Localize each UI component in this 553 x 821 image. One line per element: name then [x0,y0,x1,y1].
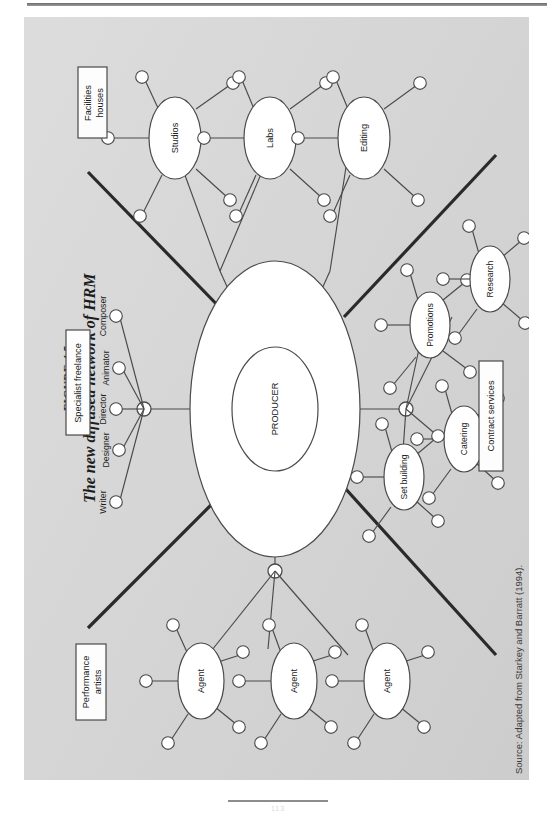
satellite-node [464,366,477,379]
satellite-node [518,232,529,245]
contract-cluster: Promotions Research [351,220,529,543]
satellite-node [140,675,153,688]
satellite-node [423,492,436,505]
group-box-performance-artists[interactable]: Performance artists [76,644,106,720]
satellite-node [384,382,397,395]
satellite-node [492,477,505,490]
satellite-node [356,619,369,632]
node-agent-3[interactable]: Agent [326,619,435,750]
group-box-label-specialist-freelance: Specialist freelance [73,343,83,423]
node-label-research: Research [485,260,495,297]
node-label-set-building: Set building [399,454,409,499]
role-label-designer: Designer [101,432,111,467]
role-node-composer[interactable] [110,310,123,323]
group-box-label-line2: houses [95,88,105,118]
node-agent-2[interactable]: Agent [233,619,342,750]
satellite-node [292,132,305,145]
role-label-animator: Animator [101,350,111,385]
group-box-specialist-freelance[interactable]: Specialist freelance [66,330,90,435]
role-label-writer: Writer [98,490,108,513]
facilities-cluster: Studios Labs [78,67,426,271]
group-box-facilities-houses[interactable]: Facilities houses [78,67,107,138]
group-box-label-line1: Performance [81,656,91,709]
node-label-agent-2: Agent [289,669,299,693]
role-node-animator[interactable] [113,362,126,375]
satellite-node [318,194,331,207]
node-studios[interactable]: Studios [102,71,240,223]
page-number: 113 [228,805,328,812]
satellite-node [237,646,250,659]
satellite-node [255,737,268,750]
satellite-node [233,721,246,734]
satellite-node [432,515,445,528]
producer-label: PRODUCER [270,382,280,435]
figure-panel: FIGURE 4.5 The new diffused network of H… [24,17,529,780]
node-label-editing: Editing [359,124,369,152]
satellite-node [162,737,175,750]
satellite-node [326,675,339,688]
satellite-node [233,71,246,84]
node-label-agent-3: Agent [382,669,392,693]
satellite-node [463,220,476,233]
group-box-label-line2: artists [93,669,103,694]
role-node-writer[interactable] [110,496,123,509]
satellite-node [375,319,388,332]
satellite-node [519,317,529,330]
node-label-catering: Catering [459,423,469,456]
satellite-node [263,619,276,632]
satellite-node [437,273,450,286]
satellite-node [412,194,425,207]
satellite-node [449,332,462,345]
satellite-node [329,646,342,659]
satellite-node [418,721,431,734]
satellite-node [325,721,338,734]
satellite-node [167,619,180,632]
agents-cluster: Agent Agent [76,564,434,749]
satellite-node [401,264,414,277]
satellite-node [422,646,435,659]
node-set-building[interactable]: Set building [351,418,445,543]
role-node-director[interactable] [110,403,123,416]
figure-page: FIGURE 4.5 The new diffused network of H… [0,0,553,821]
node-label-promotions: Promotions [425,303,435,346]
top-divider-rule [27,3,547,6]
group-box-contract-services[interactable]: Contract services [479,361,503,471]
bottom-divider-rule [228,800,328,802]
node-label-labs: Labs [265,128,275,148]
satellite-node [324,210,337,223]
satellite-node [134,210,147,223]
satellite-node [348,737,361,750]
satellite-node [436,380,449,393]
group-box-label-line1: Facilities [83,85,93,121]
satellite-node [327,71,340,84]
satellite-node [411,433,424,446]
role-label-composer: Composer [98,296,108,337]
role-node-designer[interactable] [113,444,126,457]
satellite-node [233,675,246,688]
satellite-node [198,132,211,145]
network-diagram: .ln { stroke:#4a4a4a; stroke-width:1.15;… [24,17,529,780]
divider-bottom-left [88,487,229,628]
satellite-node [351,471,364,484]
freelance-cluster: Composer Animator Director Designer Writ… [66,296,151,514]
satellite-node [432,430,445,443]
satellite-node [224,194,237,207]
satellite-node [376,418,389,431]
node-promotions[interactable]: Promotions [375,264,477,395]
group-box-label-contract-services: Contract services [486,380,496,451]
satellite-node [414,77,427,90]
satellite-node [363,530,376,543]
satellite-node [136,71,149,84]
satellite-node [230,210,243,223]
producer-core-group: PRODUCER [144,261,406,571]
node-label-agent-1: Agent [196,669,206,693]
role-label-director: Director [98,394,108,425]
node-label-studios: Studios [170,122,180,153]
divider-top-left [88,172,229,317]
